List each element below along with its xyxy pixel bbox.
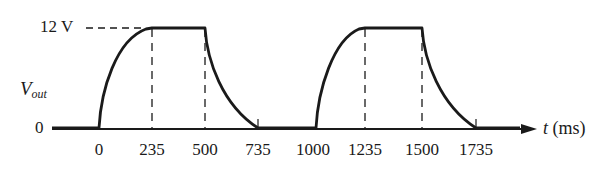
- x-tick-label: 1235: [348, 140, 382, 160]
- y-axis-title: Vout: [20, 78, 47, 102]
- x-tick-label: 1735: [459, 140, 493, 160]
- x-tick-label: 0: [95, 140, 104, 160]
- x-tick-label: 500: [192, 140, 218, 160]
- x-axis-title: t (ms): [543, 118, 586, 139]
- y-tick-label-12v: 12 V: [40, 17, 73, 37]
- y-axis-title-var: V: [20, 78, 32, 99]
- x-axis-title-unit: (ms): [548, 118, 586, 138]
- y-tick-label-0: 0: [35, 118, 44, 138]
- x-tick-label: 735: [245, 140, 271, 160]
- x-axis-arrow-icon: [521, 124, 537, 134]
- x-tick-label: 235: [139, 140, 165, 160]
- vout-waveform: [52, 28, 520, 128]
- x-tick-label: 1500: [405, 140, 439, 160]
- y-axis-title-sub: out: [32, 87, 47, 101]
- x-tick-label: 1000: [296, 140, 330, 160]
